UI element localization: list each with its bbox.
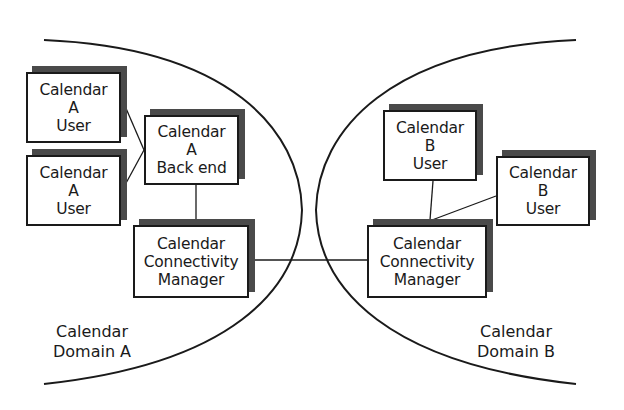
node-line: Calendar (157, 123, 225, 141)
node-calendar-a-backend: Calendar A Back end (144, 115, 239, 185)
domain-label-line: Calendar (44, 322, 140, 342)
edge-b-user-2-ccm (432, 196, 496, 220)
domain-label-line: Calendar (468, 322, 564, 342)
node-calendar-b-connectivity-manager: Calendar Connectivity Manager (367, 225, 487, 298)
node-calendar-a-user-1: Calendar A User (26, 72, 121, 143)
node-line: Calendar (396, 119, 464, 137)
node-line: Connectivity (144, 253, 239, 271)
node-line: Calendar (157, 235, 225, 253)
edge-a-user-2-backend (125, 150, 144, 185)
edge-a-user-1-backend (125, 106, 144, 150)
node-line: Connectivity (380, 253, 475, 271)
node-line: User (526, 200, 561, 218)
node-line: Calendar (39, 81, 107, 99)
node-line: A (68, 182, 78, 200)
node-calendar-a-connectivity-manager: Calendar Connectivity Manager (133, 225, 249, 298)
node-line: Manager (158, 271, 225, 289)
node-line: Calendar (393, 235, 461, 253)
node-line: User (413, 155, 448, 173)
node-line: B (538, 182, 548, 200)
node-line: B (425, 137, 435, 155)
node-line: Calendar (39, 164, 107, 182)
edge-b-user-1-ccm (430, 181, 433, 220)
domain-label-line: Domain A (44, 342, 140, 362)
node-calendar-b-user-1: Calendar B User (383, 110, 477, 181)
node-line: A (186, 141, 196, 159)
node-line: Back end (156, 159, 226, 177)
node-line: A (68, 99, 78, 117)
domain-label-line: Domain B (468, 342, 564, 362)
node-calendar-b-user-2: Calendar B User (496, 156, 590, 226)
node-line: User (56, 200, 91, 218)
node-line: Manager (394, 271, 461, 289)
node-calendar-a-user-2: Calendar A User (26, 155, 121, 226)
domain-b-label: Calendar Domain B (468, 322, 564, 362)
node-line: User (56, 117, 91, 135)
domain-a-label: Calendar Domain A (44, 322, 140, 362)
node-line: Calendar (509, 164, 577, 182)
